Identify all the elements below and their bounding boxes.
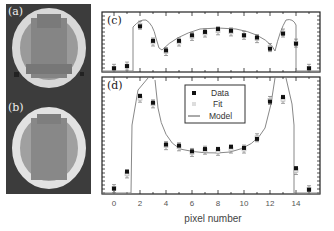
- data-marker: [177, 39, 181, 43]
- data-marker: [307, 188, 311, 192]
- data-marker: [307, 66, 311, 70]
- data-marker: [203, 147, 207, 151]
- x-tick-label: 0: [112, 199, 117, 208]
- legend-fit-marker: [192, 102, 196, 106]
- data-marker: [216, 27, 220, 31]
- legend-data-marker: [192, 91, 196, 95]
- data-marker: [229, 29, 233, 33]
- legend-fit-label: Fit: [213, 99, 223, 109]
- data-marker: [203, 30, 207, 34]
- data-marker: [242, 146, 246, 150]
- data-marker: [242, 33, 246, 37]
- data-marker: [151, 39, 155, 43]
- data-marker: [294, 166, 298, 170]
- x-tick-label: 10: [240, 199, 249, 208]
- data-marker: [255, 36, 259, 40]
- data-marker: [190, 33, 194, 37]
- line-plots: Data Fit Model 02468101214 pixel number: [0, 0, 334, 231]
- legend-data-label: Data: [211, 88, 229, 98]
- data-marker: [268, 100, 272, 104]
- x-tick-label: 8: [216, 199, 221, 208]
- data-marker: [294, 42, 298, 46]
- panel-label-d: (d): [107, 79, 123, 92]
- data-marker: [281, 32, 285, 36]
- data-marker: [229, 145, 233, 149]
- x-tick-label: 2: [138, 199, 143, 208]
- data-marker: [112, 66, 116, 70]
- data-marker: [268, 47, 272, 51]
- data-marker: [125, 64, 129, 68]
- data-marker: [112, 187, 116, 191]
- data-marker: [216, 147, 220, 151]
- x-tick-label: 4: [164, 199, 169, 208]
- data-marker: [164, 48, 168, 52]
- data-marker: [255, 137, 259, 141]
- panel-label-c: (c): [107, 14, 122, 27]
- data-marker: [190, 149, 194, 153]
- plot-panel-c: [102, 12, 320, 72]
- x-tick-label: 12: [266, 199, 275, 208]
- x-tick-labels: 02468101214: [112, 199, 301, 208]
- x-tick-label: 14: [292, 199, 301, 208]
- x-tick-label: 6: [190, 199, 195, 208]
- data-marker: [281, 95, 285, 99]
- x-axis-title: pixel number: [184, 213, 242, 224]
- data-marker: [138, 24, 142, 28]
- data-marker: [125, 170, 129, 174]
- data-marker: [138, 94, 142, 98]
- data-marker: [177, 144, 181, 148]
- data-marker: [151, 101, 155, 105]
- legend-model-label: Model: [209, 111, 232, 121]
- data-marker: [164, 143, 168, 147]
- legend: Data Fit Model: [185, 85, 245, 123]
